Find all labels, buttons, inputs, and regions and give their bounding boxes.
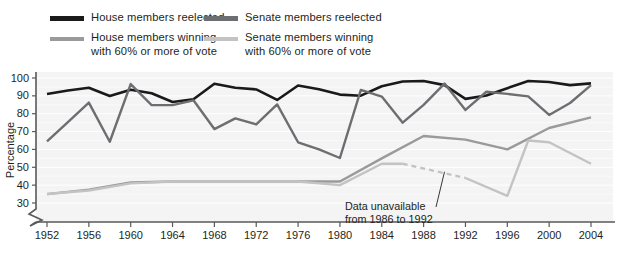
legend-swatch-icon	[50, 16, 84, 21]
chart-plot-area: 30405060708090100 1952195619601964196819…	[0, 62, 628, 263]
x-tick-label: 1992	[453, 229, 477, 241]
legend-label: House members winning with 60% or more o…	[91, 31, 217, 58]
legend-item-senate-60: Senate members winning with 60% or more …	[204, 31, 373, 58]
legend-swatch-icon	[204, 37, 238, 41]
legend-label: Senate members winning with 60% or more …	[245, 31, 373, 58]
x-tick-label: 1964	[160, 229, 184, 241]
annotation-line-2: from 1986 to 1992	[345, 213, 433, 225]
annotation-line-1: Data unavailable	[345, 200, 425, 212]
y-tick-label: 40	[17, 179, 29, 191]
legend-label: Senate members reelected	[245, 11, 382, 25]
legend-item-house-reelected: House members reelected	[50, 11, 225, 25]
chart-figure: House members reelected House members wi…	[0, 0, 628, 263]
y-axis-title-text: Percentage	[4, 122, 16, 178]
x-tick-label: 1956	[77, 229, 101, 241]
y-tick-label: 30	[17, 197, 29, 209]
x-tick-label: 1988	[411, 229, 435, 241]
y-tick-label: 80	[17, 107, 29, 119]
x-tick-label: 1952	[35, 229, 59, 241]
legend-item-house-60: House members winning with 60% or more o…	[50, 31, 217, 58]
legend-item-senate-reelected: Senate members reelected	[204, 11, 382, 25]
chart-legend: House members reelected House members wi…	[0, 0, 628, 62]
legend-swatch-icon	[50, 37, 84, 41]
x-tick-label: 2000	[537, 229, 561, 241]
y-axis-title: Percentage	[4, 122, 16, 178]
legend-swatch-icon	[204, 16, 238, 21]
x-tick-label: 1968	[202, 229, 226, 241]
x-tick-label: 1996	[495, 229, 519, 241]
y-tick-label: 60	[17, 143, 29, 155]
x-tick-label: 2004	[579, 229, 603, 241]
x-tick-labels: 1952195619601964196819721976198019841988…	[35, 222, 603, 241]
x-tick-label: 1984	[370, 229, 394, 241]
y-tick-label: 70	[17, 125, 29, 137]
x-tick-label: 1976	[286, 229, 310, 241]
y-tick-label: 90	[17, 89, 29, 101]
chart-canvas: 30405060708090100 1952195619601964196819…	[0, 62, 628, 263]
y-tick-label: 100	[11, 72, 29, 84]
x-tick-label: 1960	[118, 229, 142, 241]
x-tick-label: 1972	[244, 229, 268, 241]
x-tick-label: 1980	[328, 229, 352, 241]
y-tick-label: 50	[17, 161, 29, 173]
